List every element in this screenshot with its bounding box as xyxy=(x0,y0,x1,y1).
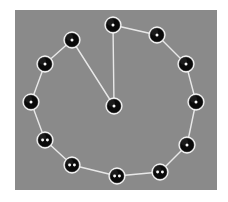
graph-edge xyxy=(113,25,114,106)
node-pip xyxy=(30,101,33,104)
node-pip xyxy=(161,171,164,174)
graph-node[interactable] xyxy=(188,94,204,110)
graph-node-center[interactable] xyxy=(106,98,122,114)
graph-node[interactable] xyxy=(37,56,53,72)
graph-node[interactable] xyxy=(179,137,195,153)
node-pip xyxy=(41,139,44,142)
graph-node[interactable] xyxy=(105,17,121,33)
graph-node[interactable] xyxy=(109,168,125,184)
node-pip xyxy=(73,164,76,167)
node-pip xyxy=(113,175,116,178)
node-pip xyxy=(156,34,159,37)
graph-node[interactable] xyxy=(64,157,80,173)
node-pip xyxy=(68,164,71,167)
node-pip xyxy=(46,139,49,142)
node-pip xyxy=(195,101,198,104)
graph-edge xyxy=(72,40,114,106)
graph-panel xyxy=(15,10,217,190)
node-pip xyxy=(113,105,116,108)
graph-node[interactable] xyxy=(149,27,165,43)
node-pip xyxy=(185,63,188,66)
graph-node[interactable] xyxy=(37,132,53,148)
node-pip xyxy=(186,144,189,147)
node-pip xyxy=(112,24,115,27)
graph-node[interactable] xyxy=(152,164,168,180)
node-pip xyxy=(118,175,121,178)
figure-root xyxy=(0,0,228,202)
graph-node[interactable] xyxy=(23,94,39,110)
node-pip xyxy=(44,63,47,66)
graph-node[interactable] xyxy=(64,32,80,48)
graph-node[interactable] xyxy=(178,56,194,72)
graph-canvas xyxy=(15,10,217,190)
node-pip xyxy=(156,171,159,174)
node-pip xyxy=(71,39,74,42)
